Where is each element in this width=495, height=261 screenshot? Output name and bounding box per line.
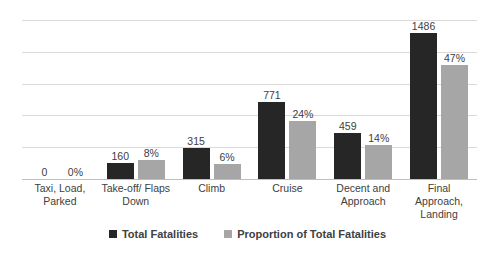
bar-wrapper: 160: [107, 20, 134, 179]
bar-value-label: 0%: [68, 166, 83, 178]
bar[interactable]: [258, 102, 285, 179]
bar[interactable]: [214, 164, 241, 179]
bar-chart: 00%1608%3156%77124%45914%148647% Taxi, L…: [0, 0, 495, 261]
bar[interactable]: [365, 145, 392, 179]
bar-value-label: 0: [41, 166, 47, 178]
legend-item[interactable]: Total Fatalities: [109, 228, 198, 240]
bar-wrapper: 1486: [410, 20, 437, 179]
bar-wrapper: 47%: [441, 20, 468, 179]
legend-swatch-icon: [224, 230, 232, 238]
bar-group: 148647%: [401, 20, 477, 179]
bar-wrapper: 14%: [365, 20, 392, 179]
legend-swatch-icon: [109, 230, 117, 238]
bar-value-label: 6%: [219, 151, 234, 163]
bar-group: 00%: [22, 20, 98, 179]
bar-value-label: 160: [111, 150, 129, 162]
x-axis-tick-label: Climb: [174, 182, 250, 218]
bar-value-label: 459: [339, 120, 357, 132]
chart-legend: Total FatalitiesProportion of Total Fata…: [0, 228, 495, 240]
bar-wrapper: 771: [258, 20, 285, 179]
bar-value-label: 1486: [412, 20, 435, 32]
bar[interactable]: [410, 33, 437, 179]
legend-label: Total Fatalities: [122, 228, 198, 240]
bar-group: 77124%: [249, 20, 325, 179]
bar-groups: 00%1608%3156%77124%45914%148647%: [22, 20, 477, 179]
bar-wrapper: 315: [183, 20, 210, 179]
bar-value-label: 14%: [368, 132, 389, 144]
x-axis-tick-label: Taxi, Load, Parked: [22, 182, 98, 218]
bar-group: 45914%: [325, 20, 401, 179]
bar[interactable]: [107, 163, 134, 179]
bar-wrapper: 24%: [289, 20, 316, 179]
bar-wrapper: 8%: [138, 20, 165, 179]
axis-baseline: [22, 179, 477, 180]
bar[interactable]: [441, 65, 468, 179]
bar[interactable]: [138, 160, 165, 179]
legend-label: Proportion of Total Fatalities: [237, 228, 386, 240]
bar-value-label: 8%: [144, 147, 159, 159]
legend-item[interactable]: Proportion of Total Fatalities: [224, 228, 386, 240]
bar[interactable]: [183, 148, 210, 179]
bar-wrapper: 6%: [214, 20, 241, 179]
x-axis-tick-label: Take-off/ Flaps Down: [98, 182, 174, 218]
bar-value-label: 24%: [292, 108, 313, 120]
bar-wrapper: 459: [334, 20, 361, 179]
bar[interactable]: [334, 133, 361, 179]
bar[interactable]: [289, 121, 316, 179]
x-axis-tick-label: Final Approach, Landing: [401, 182, 477, 218]
bar-value-label: 771: [263, 89, 281, 101]
x-axis-tick-label: Decent and Approach: [325, 182, 401, 218]
bar-wrapper: 0: [31, 20, 58, 179]
x-axis-tick-label: Cruise: [249, 182, 325, 218]
bar-value-label: 47%: [444, 52, 465, 64]
bar-wrapper: 0%: [62, 20, 89, 179]
bar-group: 1608%: [98, 20, 174, 179]
x-axis-labels: Taxi, Load, ParkedTake-off/ Flaps DownCl…: [22, 182, 477, 218]
bar-group: 3156%: [174, 20, 250, 179]
bar-value-label: 315: [187, 135, 205, 147]
